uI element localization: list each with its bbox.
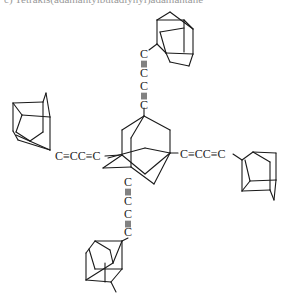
atom-chain-text: C≡CC≡C (55, 149, 101, 163)
right-adamantyl-cage (242, 152, 276, 200)
bottom-adamantyl-cage (86, 241, 122, 292)
atom-chain-text: C≡CC≡C (180, 147, 226, 161)
top-butadiynyl-chain: C C C C (140, 44, 157, 112)
left-butadiynyl-chain: C≡CC≡C (55, 149, 120, 163)
atom-c: C (124, 194, 132, 208)
atom-c: C (124, 207, 132, 221)
atom-c: C (124, 225, 132, 239)
molecule-structure: C C C C C≡CC≡C (0, 0, 286, 294)
central-adamantane (103, 108, 170, 184)
left-adamantyl-cage (13, 93, 50, 150)
right-butadiynyl-chain: C≡CC≡C (170, 147, 242, 161)
atom-c: C (140, 79, 148, 93)
atom-c: C (124, 175, 132, 189)
top-adamantyl-cage (157, 12, 193, 66)
bottom-butadiynyl-chain: C C C C (122, 175, 132, 241)
atom-c: C (140, 66, 148, 80)
atom-c: C (140, 98, 148, 112)
atom-c: C (140, 47, 148, 61)
